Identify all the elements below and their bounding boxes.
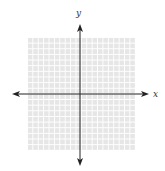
y-axis-label: y (76, 8, 81, 18)
axes (0, 0, 165, 171)
x-axis-label: x (153, 89, 158, 99)
y-axis (77, 24, 83, 166)
